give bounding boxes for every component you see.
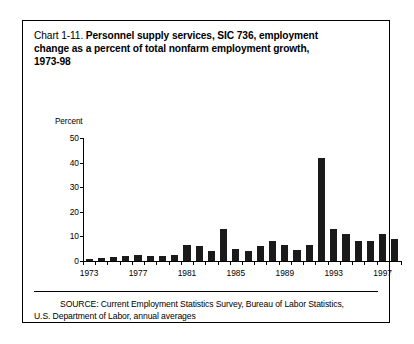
x-tick-label-1973: 1973 (80, 269, 99, 278)
source-divider (34, 291, 378, 292)
bar-1975 (110, 257, 117, 261)
source-note: SOURCE: Current Employment Statistics Su… (34, 299, 380, 322)
bar-1980 (171, 255, 178, 261)
title-line-1: Chart 1-11. Personnel supply services, S… (34, 29, 372, 42)
x-tick-mark (144, 261, 145, 265)
x-tick-label-1997: 1997 (373, 269, 392, 278)
bar-1993 (330, 229, 337, 261)
bar-1986 (245, 251, 252, 261)
y-tick-mark (80, 212, 83, 213)
x-tick-label-1993: 1993 (324, 269, 343, 278)
bar-1983 (208, 251, 215, 261)
y-axis-unit-label: Percent (55, 117, 83, 126)
x-tick-mark (377, 261, 378, 265)
x-tick-mark (401, 261, 402, 265)
bar-1990 (293, 250, 300, 261)
bar-1985 (232, 249, 239, 261)
x-tick-mark (181, 261, 182, 265)
x-tick-mark (169, 261, 170, 265)
bar-1989 (281, 245, 288, 261)
x-tick-mark (107, 261, 108, 265)
y-tick-mark (80, 163, 83, 164)
x-tick-mark (315, 261, 316, 265)
title-text-1: Personnel supply services, SIC 736, empl… (86, 30, 318, 41)
x-tick-mark (156, 261, 157, 265)
title-line-2: change as a percent of total nonfarm emp… (34, 42, 372, 55)
bar-1974 (98, 258, 105, 261)
x-tick-mark (328, 261, 329, 265)
title-line-3: 1973-98 (34, 55, 372, 68)
bar-1987 (257, 246, 264, 261)
x-tick-label-1981: 1981 (178, 269, 197, 278)
x-tick-mark (340, 261, 341, 265)
bar-1997 (379, 234, 386, 261)
bar-1982 (196, 246, 203, 261)
y-tick-mark (80, 187, 83, 188)
y-tick-label-20: 20 (70, 208, 79, 216)
x-tick-mark (205, 261, 206, 265)
x-tick-mark (254, 261, 255, 265)
x-tick-mark (120, 261, 121, 265)
x-tick-label-1989: 1989 (275, 269, 294, 278)
y-tick-label-30: 30 (70, 183, 79, 191)
y-axis-line (83, 138, 84, 261)
y-tick-label-0: 0 (74, 257, 79, 265)
x-tick-label-1985: 1985 (227, 269, 246, 278)
source-line-1: SOURCE: Current Employment Statistics Su… (34, 299, 380, 311)
x-tick-mark (389, 261, 390, 265)
bar-1998 (391, 239, 398, 261)
y-tick-label-40: 40 (70, 158, 79, 166)
title-prefix: Chart 1-11. (34, 30, 83, 41)
x-tick-mark (352, 261, 353, 265)
bar-1992 (318, 158, 325, 261)
bar-1981 (183, 245, 190, 261)
x-tick-label-1977: 1977 (129, 269, 148, 278)
x-tick-mark (242, 261, 243, 265)
bar-1978 (147, 256, 154, 261)
x-tick-mark (291, 261, 292, 265)
bar-1973 (86, 259, 93, 261)
bar-1991 (306, 245, 313, 261)
y-tick-label-10: 10 (70, 232, 79, 240)
plot-area: 01020304050 1973197719811985198919931997 (83, 138, 401, 261)
source-line-2: U.S. Department of Labor, annual average… (34, 311, 380, 323)
x-tick-mark (279, 261, 280, 265)
x-tick-mark (303, 261, 304, 265)
x-tick-mark (218, 261, 219, 265)
bar-1979 (159, 256, 166, 261)
x-tick-mark (95, 261, 96, 265)
chart-title: Chart 1-11. Personnel supply services, S… (34, 29, 372, 69)
y-tick-mark (80, 138, 83, 139)
chart-card: Chart 1-11. Personnel supply services, S… (22, 20, 390, 323)
x-tick-mark (132, 261, 133, 265)
y-tick-mark (80, 236, 83, 237)
x-tick-mark (83, 261, 84, 265)
bar-1994 (342, 234, 349, 261)
bar-1977 (134, 255, 141, 261)
y-tick-label-50: 50 (70, 134, 79, 142)
bar-1996 (367, 241, 374, 261)
bar-1995 (355, 241, 362, 261)
bar-1976 (122, 256, 129, 261)
x-tick-mark (193, 261, 194, 265)
x-tick-mark (266, 261, 267, 265)
x-tick-mark (230, 261, 231, 265)
bar-1988 (269, 241, 276, 261)
bar-1984 (220, 229, 227, 261)
x-tick-mark (364, 261, 365, 265)
